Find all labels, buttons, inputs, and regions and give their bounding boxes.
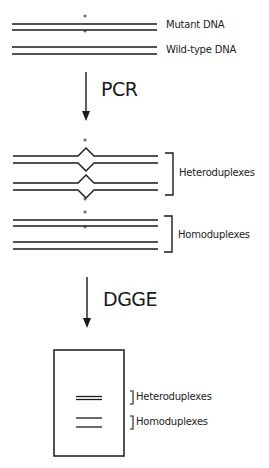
mutation-marker-heteroduplex-1: * — [83, 138, 87, 147]
heteroduplex-bracket — [165, 153, 173, 195]
mutation-marker-mutant-bottom: * — [83, 29, 87, 38]
gel-homoduplex-bracket — [130, 416, 133, 429]
mutation-marker-heteroduplex-2: * — [83, 197, 87, 206]
heteroduplex-1-top-strand — [13, 148, 158, 156]
homoduplexes-label: Homoduplexes — [178, 229, 250, 240]
mutation-marker-homoduplex-bottom: * — [83, 225, 87, 234]
heteroduplex-2-top-strand — [13, 175, 158, 183]
heteroduplexes-label: Heteroduplexes — [179, 167, 255, 178]
dgge-step-label: DGGE — [103, 288, 157, 310]
mutation-marker-homoduplex-top: * — [83, 210, 87, 219]
gel-homoduplexes-label: Homoduplexes — [136, 416, 208, 427]
pcr-arrow-head — [82, 111, 90, 121]
mutant-dna-label: Mutant DNA — [166, 19, 224, 30]
gel-heteroduplexes-label: Heteroduplexes — [136, 391, 212, 402]
gel-box — [54, 350, 124, 456]
gel-heteroduplex-bracket — [130, 391, 133, 404]
heteroduplex-1-bottom-strand — [13, 163, 158, 171]
pcr-step-label: PCR — [101, 78, 137, 100]
dgge-arrow-head — [83, 318, 91, 328]
homoduplex-bracket — [164, 216, 172, 252]
mutation-marker-mutant-top: * — [83, 14, 87, 23]
wildtype-dna-label: Wild-type DNA — [166, 44, 236, 55]
